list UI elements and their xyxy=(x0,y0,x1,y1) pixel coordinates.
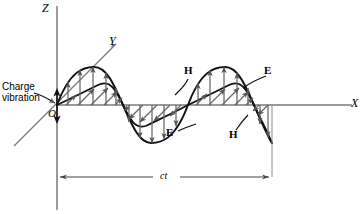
e-field-label-lower: E xyxy=(166,127,173,139)
z-axis-label: Z xyxy=(42,2,49,15)
origin-label: O xyxy=(48,108,56,120)
em-wave-figure: Z Y X O Charge vibration H E E H ct xyxy=(0,0,363,214)
h-field-label-lower: H xyxy=(229,129,238,141)
distance-label: ct xyxy=(160,171,167,182)
x-axis-label: X xyxy=(351,97,358,110)
h-upper-leader xyxy=(175,79,188,95)
h-field-label-upper: H xyxy=(184,65,193,77)
e-field-label-upper: E xyxy=(264,65,271,77)
e-upper-leader xyxy=(243,76,266,88)
y-axis-label: Y xyxy=(109,35,116,48)
e-lower-leader xyxy=(178,124,196,131)
charge-vibration-label-line2: vibration xyxy=(2,93,40,104)
